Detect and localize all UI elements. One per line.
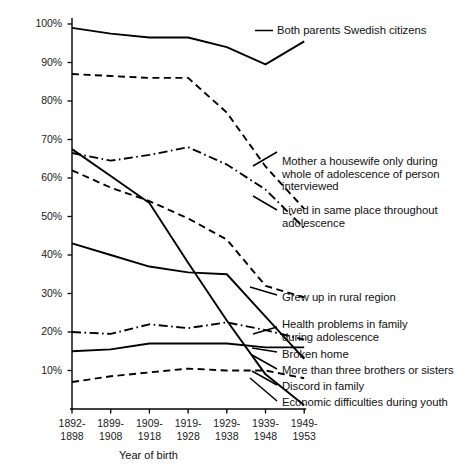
y-tick-label: 100% (16, 17, 62, 29)
x-tick-label: 1899- 1908 (89, 417, 133, 442)
y-tick-label: 60% (16, 171, 62, 183)
series-line-0 (72, 28, 304, 65)
x-tick-label: 1949- 1953 (282, 417, 326, 442)
series-line-1 (72, 74, 304, 209)
series-label-7: Discord in family (282, 380, 364, 393)
y-tick-label: 20% (16, 325, 62, 337)
series-line-2 (72, 147, 304, 228)
y-tick-label: 40% (16, 248, 62, 260)
x-tick-label: 1929- 1938 (205, 417, 249, 442)
chart-root: 100%90%80%70%60%50%40%30%20%10% 1892- 18… (0, 0, 465, 473)
chart-series-lines (72, 28, 304, 405)
series-label-6: Broken home (282, 348, 349, 361)
x-axis-title: Year of birth (119, 449, 178, 461)
y-tick-label: 70% (16, 133, 62, 145)
series-line-3 (72, 170, 304, 297)
series-label-1: Mother a housewife only during whole of … (282, 155, 439, 193)
series-line-8 (72, 149, 304, 405)
x-tick-label: 1919- 1928 (166, 417, 210, 442)
series-label-8: Economic difficulties during youth (282, 396, 448, 409)
series-line-5 (72, 322, 304, 339)
series-label-3: Grew up in rural region (282, 291, 396, 304)
series-line-4 (72, 243, 304, 359)
x-tick-label: 1909- 1918 (127, 417, 171, 442)
series-label-4: More than three brothers or sisters (282, 364, 454, 377)
series-label-5: Health problems in family during adolesc… (282, 318, 408, 343)
y-tick-label: 50% (16, 210, 62, 222)
y-tick-label: 10% (16, 364, 62, 376)
series-label-0: Both parents Swedish citizens (277, 24, 426, 37)
x-tick-label: 1939- 1948 (244, 417, 288, 442)
leader-line-6 (252, 348, 277, 352)
leader-line-3 (250, 287, 277, 295)
chart-axes (68, 18, 307, 414)
y-tick-label: 80% (16, 94, 62, 106)
x-tick-label: 1892- 1898 (50, 417, 94, 442)
y-tick-label: 30% (16, 287, 62, 299)
leader-line-5 (253, 327, 277, 334)
series-label-2: Lived in same place throughout adolescen… (282, 204, 438, 229)
y-tick-label: 90% (16, 56, 62, 68)
